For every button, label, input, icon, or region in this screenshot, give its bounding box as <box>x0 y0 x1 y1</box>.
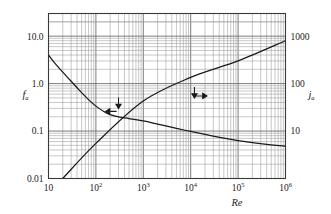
y-right-tick-label-1: 100 <box>291 79 306 89</box>
data-layer <box>49 41 286 179</box>
y-left-tick-label-0: 10.0 <box>27 32 44 42</box>
y-left-tick-label-1: 1.0 <box>32 79 44 89</box>
x-tick-label-1: 102 <box>90 181 103 192</box>
x-tick-label-5: 106 <box>279 181 293 192</box>
x-tick-label-2: 103 <box>137 181 150 192</box>
x-axis-title: Re <box>230 197 242 208</box>
x-tick-label-4: 105 <box>232 181 245 192</box>
x-tick-label-3: 104 <box>184 181 198 192</box>
series-f-a <box>49 55 286 146</box>
y-right-axis-title: ja <box>306 89 314 101</box>
y-left-axis-title: fa <box>22 89 28 101</box>
chart-figure: 1010210310410510610.01.00.10.01100010010… <box>0 0 331 214</box>
y-right-tick-label-2: 10 <box>291 126 301 136</box>
y-right-tick-label-0: 1000 <box>291 32 310 42</box>
log-log-chart: 1010210310410510610.01.00.10.01100010010… <box>0 0 331 214</box>
y-left-tick-label-2: 0.1 <box>32 126 44 136</box>
x-tick-label-0: 10 <box>44 183 54 193</box>
y-left-tick-label-3: 0.01 <box>27 174 44 184</box>
arrow-down-to-f-curve <box>116 97 121 108</box>
